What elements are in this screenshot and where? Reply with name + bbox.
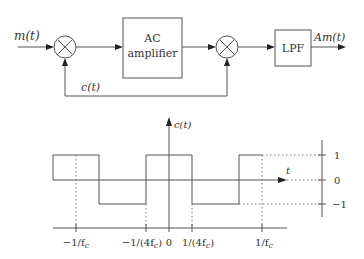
block-diagram: m(t) AC amplifier LPF Am <box>14 18 346 96</box>
tick-label-pos-period: 1/fc <box>255 237 273 250</box>
tick-label-zero: 0 <box>166 237 172 248</box>
arrow-head-icon <box>62 58 68 66</box>
amplifier-label-line1: AC <box>143 32 160 45</box>
input-label: m(t) <box>14 29 40 43</box>
diagram-canvas: m(t) AC amplifier LPF Am <box>0 0 364 259</box>
carrier-label: c(t) <box>81 81 100 94</box>
arrow-head-icon <box>267 44 275 50</box>
level-label-low: −1 <box>332 199 347 210</box>
amplifier-label-line2: amplifier <box>127 47 178 60</box>
arrow-head-icon <box>115 44 123 50</box>
arrow-head-icon <box>224 58 230 66</box>
tick-label-neg-period: −1/fc <box>63 237 90 250</box>
multiplier-2 <box>216 36 238 58</box>
tick-label-neg-quarter: −1/(4fc) <box>122 237 163 250</box>
multiplier-1 <box>54 36 76 58</box>
arrow-head-icon <box>46 44 54 50</box>
carrier-waveform-plot: c(t) t −1/fc −1/(4fc) 0 1/(4fc) 1/fc 1 <box>53 117 347 250</box>
arrow-head-icon <box>338 44 346 50</box>
level-label-zero: 0 <box>334 175 340 186</box>
arrow-head-icon <box>208 44 216 50</box>
tick-label-pos-quarter: 1/(4fc) <box>182 237 214 250</box>
lpf-label: LPF <box>282 42 305 55</box>
level-label-high: 1 <box>334 150 340 161</box>
arrow-head-icon <box>278 177 287 183</box>
x-axis-label: t <box>286 165 291 176</box>
output-label: Am(t) <box>313 31 345 44</box>
arrow-head-icon <box>166 117 172 126</box>
y-axis-label: c(t) <box>174 119 192 130</box>
